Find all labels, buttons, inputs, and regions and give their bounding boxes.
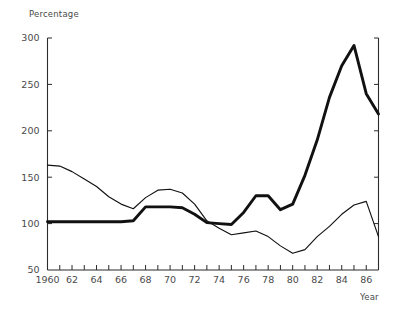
x-axis-title: Year xyxy=(360,292,379,302)
x-axis-tick-label: 64 xyxy=(90,274,102,285)
y-axis-tick-label: 300 xyxy=(21,32,39,43)
x-axis-tick-label: 74 xyxy=(213,274,225,285)
y-axis-tick-label: 200 xyxy=(21,125,39,136)
x-axis-tick-label: 62 xyxy=(66,274,78,285)
x-axis-tick-label: 80 xyxy=(287,274,299,285)
x-axis-tick-label: 82 xyxy=(311,274,323,285)
x-axis-tick-label: 84 xyxy=(336,274,348,285)
y-axis-tick-marks xyxy=(48,38,379,224)
x-axis-tick-labels: 196062646668707274767880828486 xyxy=(35,274,372,285)
series-line-thick xyxy=(48,45,379,224)
y-axis-tick-label: 150 xyxy=(21,172,39,183)
x-axis-tick-marks xyxy=(48,265,379,270)
data-series-group xyxy=(48,45,379,253)
y-axis-tick-label: 100 xyxy=(21,218,39,229)
x-axis-tick-label: 1960 xyxy=(35,274,59,285)
chart-figure: Percentage Year 50100150200250300 196062… xyxy=(0,0,402,322)
x-axis-tick-label: 78 xyxy=(262,274,274,285)
y-axis-title: Percentage xyxy=(29,9,79,19)
x-axis-tick-label: 86 xyxy=(360,274,372,285)
x-axis-tick-label: 70 xyxy=(164,274,176,285)
x-axis-tick-label: 72 xyxy=(189,274,201,285)
x-axis-tick-label: 68 xyxy=(140,274,152,285)
series-line-thin xyxy=(48,165,379,253)
y-axis-tick-label: 250 xyxy=(21,79,39,90)
line-chart-plot: 50100150200250300 1960626466687072747678… xyxy=(0,0,402,322)
y-axis-tick-labels: 50100150200250300 xyxy=(21,32,39,275)
x-axis-tick-label: 76 xyxy=(238,274,250,285)
x-axis-tick-label: 66 xyxy=(115,274,127,285)
